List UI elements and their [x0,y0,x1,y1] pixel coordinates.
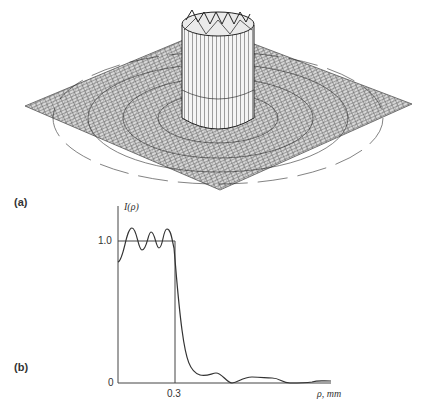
intensity-profile-chart [0,0,421,410]
y-axis-label: I(ρ) [124,201,139,212]
ideal-top-hat [118,241,175,383]
y-tick-0: 0 [108,377,114,388]
x-axis-label: ρ, mm [317,388,341,399]
y-tick-1: 1.0 [98,235,112,246]
x-tick-0-3: 0.3 [167,388,181,399]
computed-profile-curve [118,228,331,383]
